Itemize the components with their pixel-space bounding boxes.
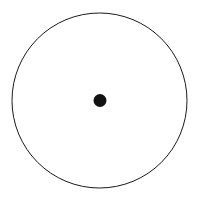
figure-canvas bbox=[0, 0, 200, 201]
figure-svg bbox=[0, 0, 200, 201]
center-dot bbox=[94, 94, 107, 107]
